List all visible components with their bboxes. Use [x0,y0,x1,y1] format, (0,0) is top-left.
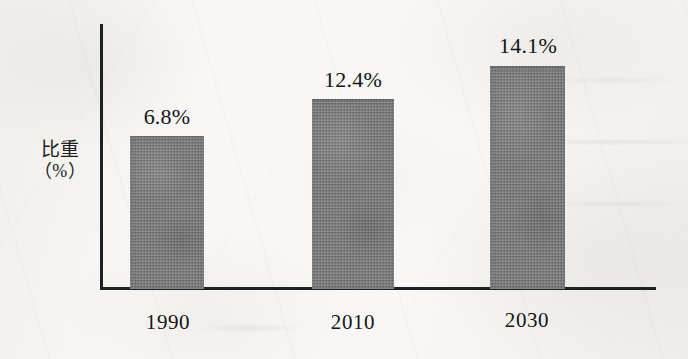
y-axis-label: 比重 （%） [24,138,96,183]
category-label-1990: 1990 [128,310,208,335]
value-label-2030: 14.1% [483,33,573,59]
bar-chart-plot-area: 比重 （%） 6.8% 1990 12.4% 2010 14.1% 2030 [0,0,688,359]
value-label-2010: 12.4% [308,67,398,93]
y-axis-line [100,24,103,290]
bar-2010 [312,99,394,289]
value-label-1990: 6.8% [130,104,204,130]
y-axis-label-line-1: 比重 [24,138,96,161]
category-label-2030: 2030 [487,308,567,333]
bar-2030 [490,66,565,289]
chart-page: 比重 （%） 6.8% 1990 12.4% 2010 14.1% 2030 [0,0,688,359]
y-axis-label-line-2: （%） [24,161,96,183]
category-label-2010: 2010 [313,310,393,335]
bar-1990 [130,136,204,289]
